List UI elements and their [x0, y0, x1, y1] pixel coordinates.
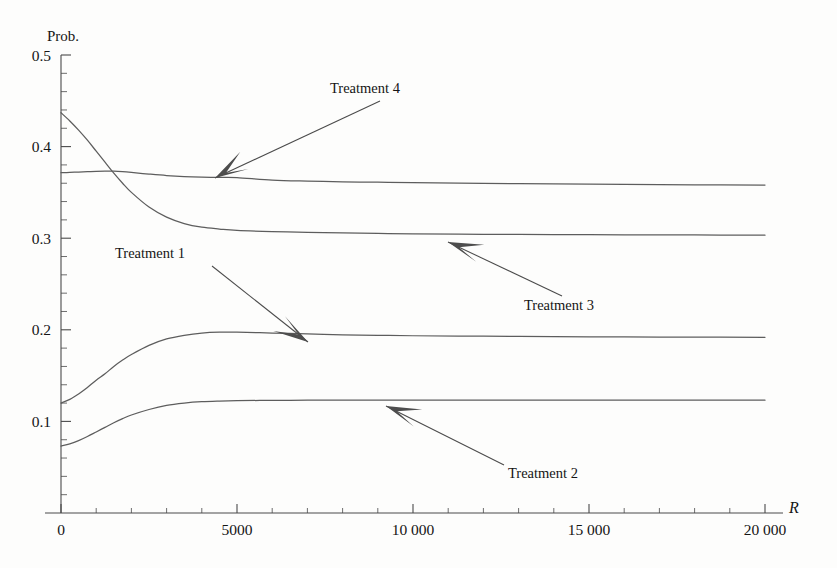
x-tick-label: 0 — [57, 521, 65, 538]
y-tick-label: 0.5 — [32, 47, 52, 64]
x-axis-title: R — [788, 499, 799, 516]
chart-figure: Treatment 1Treatment 2Treatment 3Treatme… — [0, 0, 837, 568]
x-tick-label: 20 000 — [744, 521, 787, 538]
annotation-leader-2 — [386, 406, 504, 465]
curve-annotations: Treatment 1Treatment 2Treatment 3Treatme… — [115, 80, 594, 481]
data-curves — [61, 113, 765, 446]
annotation-label-3: Treatment 3 — [524, 297, 594, 313]
annotation-leader-4 — [215, 101, 380, 178]
y-tick-label: 0.1 — [32, 413, 51, 430]
annotation-arrowhead-3 — [448, 242, 484, 262]
x-tick-label: 15 000 — [568, 521, 611, 538]
annotation-label-2: Treatment 2 — [508, 465, 578, 481]
y-tick-label: 0.4 — [32, 138, 52, 155]
annotation-label-1: Treatment 1 — [115, 245, 185, 261]
y-axis-title: Prob. — [47, 28, 79, 44]
annotation-leader-1 — [212, 266, 308, 342]
y-tick-label: 0.3 — [32, 230, 52, 247]
series-line-1 — [61, 332, 765, 403]
x-tick-label: 5000 — [222, 521, 253, 538]
x-axis-tick-labels: 0500010 00015 00020 000 — [57, 521, 786, 538]
series-line-3 — [61, 113, 765, 235]
annotation-label-4: Treatment 4 — [330, 80, 401, 96]
annotation-arrowhead-1 — [273, 316, 308, 342]
y-axis-tick-labels: 0.10.20.30.40.5 — [32, 47, 52, 430]
annotation-leader-3 — [448, 242, 562, 296]
y-tick-label: 0.2 — [32, 321, 51, 338]
line-chart-plot: Treatment 1Treatment 2Treatment 3Treatme… — [0, 0, 837, 568]
series-line-2 — [61, 400, 765, 446]
x-tick-label: 10 000 — [392, 521, 435, 538]
series-line-4 — [61, 171, 765, 185]
annotation-arrowhead-2 — [386, 406, 422, 426]
y-axis-minor-ticks — [61, 73, 67, 494]
